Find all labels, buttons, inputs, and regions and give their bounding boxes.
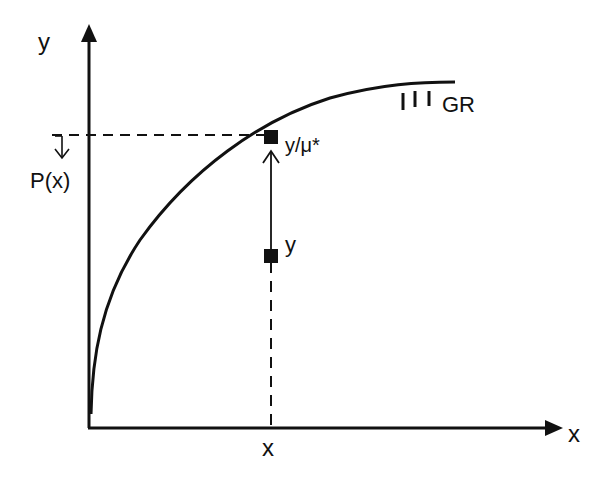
x-axis xyxy=(88,420,563,436)
frontier-diagram: y x x GR y/μ* y P(x) xyxy=(0,0,612,478)
x-axis-label: x xyxy=(568,420,580,447)
y-axis-arrow-icon xyxy=(81,24,97,42)
point-projected xyxy=(264,130,278,144)
projection-arrow-icon xyxy=(263,151,279,249)
frontier-label: GR xyxy=(442,92,475,117)
observed-point-label: y xyxy=(285,232,296,257)
hatch-marks-icon xyxy=(403,91,429,110)
output-level-label: P(x) xyxy=(30,168,70,193)
x-axis-arrow-icon xyxy=(545,420,563,436)
p-x-arrow-icon xyxy=(55,136,69,158)
y-axis-label: y xyxy=(38,28,50,55)
x-tick-label: x xyxy=(262,434,274,461)
point-observed xyxy=(264,249,278,263)
projected-point-label: y/μ* xyxy=(285,134,320,156)
